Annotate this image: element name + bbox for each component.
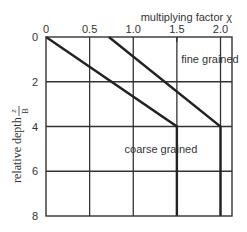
y-axis-label: relative depth z B [8,106,30,183]
x-tick-label: 2.0 [213,23,228,35]
x-tick-label: 0 [43,23,49,35]
annotation-label: coarse grained [125,143,198,155]
y-label-fraction-numerator: z [8,109,18,114]
y-tick-label: 6 [32,165,38,177]
y-tick-label: 2 [32,76,38,88]
y-tick-label: 4 [32,121,38,133]
x-axis-label: multiplying factor χ [141,11,233,23]
y-tick-label: 8 [32,210,38,222]
y-axis-label-text: relative depth [10,117,24,183]
x-tick-labels: 00.51.01.52.0 [43,23,228,42]
x-tick-label: 1.5 [169,23,184,35]
annotation-label: fine grained [181,53,239,65]
y-tick-labels: 02468 [32,31,38,222]
y-label-fraction-denominator: B [20,108,30,114]
chart: 00.51.01.52.0 02468 fine grainedcoarse g… [0,0,247,232]
x-tick-label: 0.5 [82,23,97,35]
x-tick-label: 1.0 [126,23,141,35]
y-tick-label: 0 [32,31,38,43]
